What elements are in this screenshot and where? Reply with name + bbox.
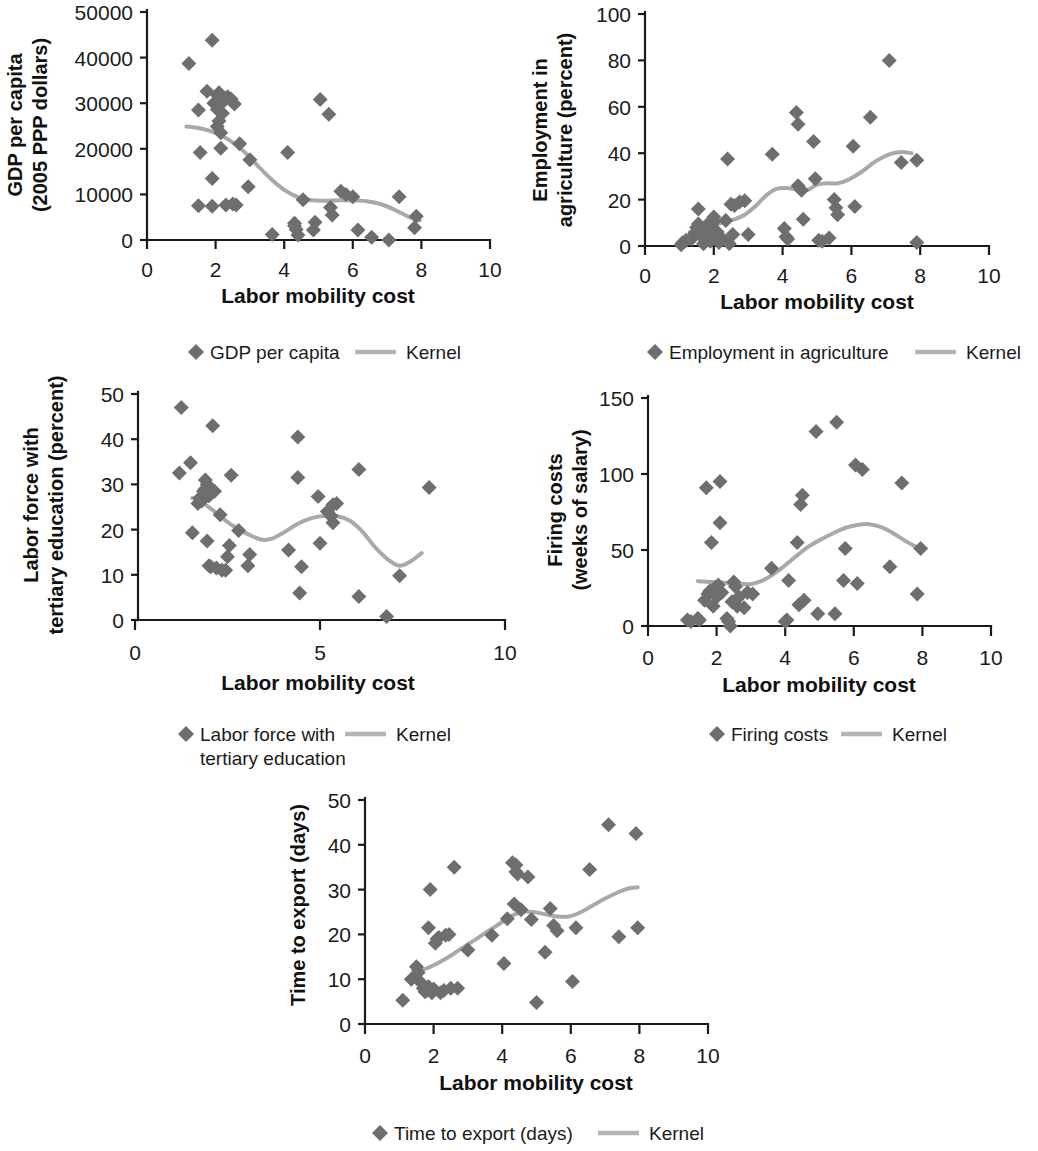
scatter-marker [241, 179, 256, 194]
x-tick-label: 10 [979, 646, 1002, 669]
scatter-marker [765, 147, 780, 162]
scatter-marker [601, 817, 616, 832]
legend-diamond-icon [178, 726, 194, 742]
x-tick-labels-gdp-per-capita: 0 2 4 6 8 10 [141, 258, 502, 281]
scatter-marker [407, 220, 422, 235]
y-tick-label: 40 [101, 428, 124, 451]
legend-diamond-icon [709, 726, 725, 742]
scatter-marker [205, 418, 220, 433]
scatter-marker [292, 585, 307, 600]
scatter-marker [205, 171, 220, 186]
scatter-marker [185, 525, 200, 540]
x-tick-label: 2 [210, 258, 222, 281]
legend-time-to-export: Time to export (days) Kernel [372, 1123, 704, 1144]
scatter-marker [191, 198, 206, 213]
scatter-marker [423, 882, 438, 897]
x-tick-label: 6 [565, 1044, 577, 1067]
scatter-marker [213, 141, 228, 156]
x-tick-label: 2 [708, 264, 720, 287]
scatter-marker [422, 480, 437, 495]
y-tick-label: 0 [619, 235, 631, 258]
scatter-marker [193, 145, 208, 160]
scatter-marker [611, 929, 626, 944]
x-tick-label: 10 [977, 264, 1000, 287]
y-tick-label: 40000 [75, 47, 133, 70]
x-axis-label: Labor mobility cost [221, 671, 415, 694]
x-tick-labels-employment-in-agriculture: 0 2 4 6 8 10 [639, 264, 1001, 287]
y-tick-label: 0 [339, 1013, 351, 1036]
scatter-marker [691, 201, 706, 216]
y-tick-label: 30000 [75, 92, 133, 115]
y-tick-label: 0 [112, 609, 124, 632]
scatter-marker [290, 429, 305, 444]
y-tick-label: 60 [608, 96, 631, 119]
y-tick-labels-time-to-export: 50 40 30 20 10 0 [328, 789, 351, 1036]
y-axis-label-time-to-export: Time to export (days) [287, 804, 309, 1006]
legend-diamond-icon [372, 1125, 388, 1141]
x-tick-label: 4 [779, 646, 791, 669]
scatter-marker [565, 974, 580, 989]
axes-labor-force-tertiary-education [131, 392, 505, 630]
scatter-marker [894, 155, 909, 170]
y-tick-label: 50 [328, 789, 351, 812]
scatter-marker [882, 559, 897, 574]
data-layer-time-to-export [395, 817, 645, 1010]
x-tick-label: 5 [314, 641, 326, 664]
y-tick-label: 30 [328, 879, 351, 902]
scatter-marker [496, 956, 511, 971]
scatter-marker [796, 212, 811, 227]
x-axis-label: Labor mobility cost [720, 290, 914, 313]
scatter-marker [718, 213, 733, 228]
y-tick-label: 30 [101, 473, 124, 496]
scatter-marker [205, 33, 220, 48]
y-tick-label: 10 [101, 564, 124, 587]
chart-panel-firing-costs: Firing costs (weeks of salary) 150 100 [519, 370, 1038, 770]
scatter-marker [568, 920, 583, 935]
y-tick-label: 40 [608, 142, 631, 165]
kernel-curve [413, 887, 638, 970]
kernel-curve [698, 524, 921, 584]
legend-label-series-line-2: tertiary education [200, 748, 346, 769]
y-axis-label-line-1: Labor force with [20, 427, 42, 583]
scatter-marker [704, 535, 719, 550]
y-tick-label: 80 [608, 49, 631, 72]
y-tick-label: 50000 [75, 1, 133, 24]
x-tick-label: 8 [416, 258, 428, 281]
scatter-marker [838, 541, 853, 556]
scatter-marker [894, 476, 909, 491]
legend-label-kernel: Kernel [892, 724, 947, 745]
scatter-marker [741, 227, 756, 242]
y-axis-label-line-2: (weeks of salary) [569, 429, 591, 590]
scatter-marker [882, 53, 897, 68]
scatter-panel-figure: GDP per capita (2005 PPP dollars) [0, 0, 1038, 1151]
scatter-marker [809, 424, 824, 439]
scatter-marker [364, 230, 379, 245]
y-axis-label-line-2: tertiary education (percent) [45, 376, 67, 635]
scatter-marker [846, 139, 861, 154]
x-tick-label: 8 [917, 646, 929, 669]
y-tick-label: 100 [599, 463, 634, 486]
x-tick-label: 4 [278, 258, 290, 281]
scatter-marker [313, 536, 328, 551]
chart-svg-firing-costs: Firing costs (weeks of salary) 150 100 [519, 370, 1038, 770]
scatter-marker [220, 549, 235, 564]
x-tick-label: 4 [496, 1044, 508, 1067]
y-tick-label: 20 [328, 923, 351, 946]
scatter-marker [836, 573, 851, 588]
x-tick-label: 0 [639, 264, 651, 287]
legend-label-series: Time to export (days) [394, 1123, 573, 1144]
y-axis-label-line-1: Time to export (days) [287, 804, 309, 1006]
data-layer-labor-force-tertiary-education [172, 400, 437, 624]
chart-panel-labor-force-tertiary-education: Labor force with tertiary education (per… [0, 370, 519, 770]
legend-label-kernel: Kernel [396, 724, 451, 745]
scatter-marker [910, 587, 925, 602]
legend-diamond-icon [188, 344, 204, 360]
legend-diamond-icon [647, 344, 663, 360]
y-tick-label: 0 [121, 229, 133, 252]
legend-label-series: Firing costs [731, 724, 828, 745]
y-tick-label: 50 [611, 539, 634, 562]
x-axis-label: Labor mobility cost [221, 284, 415, 307]
legend-gdp-per-capita: GDP per capita Kernel [188, 342, 461, 363]
scatter-marker [281, 542, 296, 557]
scatter-marker [232, 136, 247, 151]
